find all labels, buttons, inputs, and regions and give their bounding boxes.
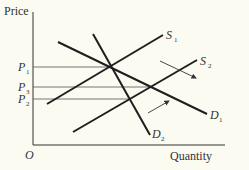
svg-text:S: S <box>166 28 172 42</box>
svg-text:2: 2 <box>161 135 165 143</box>
s1-label: S 1 <box>166 28 178 44</box>
svg-text:D: D <box>209 108 219 122</box>
svg-text:2: 2 <box>26 100 30 108</box>
s2-label: S 2 <box>200 54 212 70</box>
x-axis-label: Quantity <box>170 149 212 163</box>
svg-text:D: D <box>151 127 161 141</box>
demand-curve-d2 <box>93 34 150 135</box>
svg-text:1: 1 <box>26 68 30 76</box>
y-axis-label: Price <box>4 4 29 18</box>
svg-text:S: S <box>200 54 206 68</box>
svg-text:P: P <box>17 60 26 74</box>
svg-text:3: 3 <box>26 88 30 96</box>
svg-text:2: 2 <box>208 62 212 70</box>
supply-shift-arrow-icon <box>148 101 169 113</box>
svg-text:1: 1 <box>219 116 223 124</box>
d1-label: D 1 <box>209 108 223 124</box>
svg-text:1: 1 <box>174 36 178 44</box>
origin-label: O <box>25 148 34 162</box>
supply-demand-diagram: Price Quantity O P 1 P 3 P 2 S 1 S 2 D 1… <box>0 0 249 170</box>
p1-label: P 1 <box>17 60 30 76</box>
svg-text:P: P <box>17 92 26 106</box>
supply-curve-s2 <box>73 60 197 132</box>
d2-label: D 2 <box>151 127 165 143</box>
